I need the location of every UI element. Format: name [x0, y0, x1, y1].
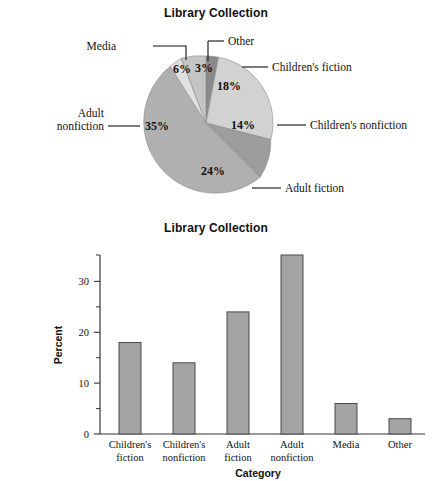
pie-pct-media: 6%: [173, 62, 191, 76]
x-cat-label-childrens-fiction-line2: fiction: [116, 452, 144, 463]
x-cat-label-adult-nonfiction-line1: Adult: [280, 439, 304, 450]
pie-pct-other: 3%: [195, 61, 213, 75]
bar-childrens-nonfiction: [173, 363, 195, 434]
bar-chart: 0 10 20 30 Percent Children's fiction Ch…: [0, 241, 432, 481]
y-tick-label-0: 0: [84, 429, 89, 440]
x-axis-title: Category: [235, 467, 281, 479]
figure-container: Library Collection Media Other Children'…: [0, 0, 432, 481]
x-cat-label-other: Other: [388, 439, 412, 450]
leader-line-media: [153, 46, 186, 60]
pie-label-adult-nonfiction-line1: Adult: [78, 107, 105, 119]
bar-childrens-fiction: [119, 343, 141, 435]
pie-chart: Media Other Children's fiction Children'…: [0, 0, 432, 215]
pie-pct-adult-nonfiction: 35%: [145, 119, 169, 133]
x-cat-label-adult-fiction-line2: fiction: [224, 452, 252, 463]
pie-label-media: Media: [87, 40, 116, 52]
x-cat-label-adult-fiction-line1: Adult: [226, 439, 250, 450]
pie-label-adult-fiction: Adult fiction: [285, 182, 344, 194]
bar-adult-fiction: [227, 312, 249, 434]
y-axis-title: Percent: [52, 325, 64, 364]
bar-adult-nonfiction: [281, 255, 303, 434]
pie-pct-childrens-fiction: 18%: [217, 79, 241, 93]
pie-label-childrens-nonfiction: Children's nonfiction: [310, 119, 407, 131]
y-tick-label-10: 10: [79, 378, 90, 389]
bar-other: [389, 419, 411, 434]
x-cat-label-media: Media: [333, 439, 360, 450]
y-tick-label-30: 30: [79, 276, 90, 287]
x-cat-label-childrens-fiction-line1: Children's: [109, 439, 152, 450]
x-cat-label-childrens-nonfiction-line2: nonfiction: [162, 452, 206, 463]
x-cat-label-childrens-nonfiction-line1: Children's: [163, 439, 206, 450]
pie-pct-adult-fiction: 24%: [201, 164, 225, 178]
pie-pct-childrens-nonfiction: 14%: [231, 118, 255, 132]
x-cat-label-adult-nonfiction-line2: nonfiction: [270, 452, 314, 463]
pie-label-childrens-fiction: Children's fiction: [272, 61, 352, 73]
pie-label-adult-nonfiction-line2: nonfiction: [57, 120, 105, 132]
bar-media: [335, 404, 357, 435]
bar-chart-title: Library Collection: [0, 221, 432, 235]
pie-label-other: Other: [228, 35, 254, 47]
y-tick-label-20: 20: [79, 327, 90, 338]
